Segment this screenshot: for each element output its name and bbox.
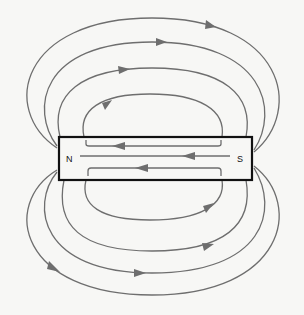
bottom-field-lines (27, 166, 279, 295)
field-line-bottom-3 (62, 180, 247, 251)
arrow-top-2 (156, 38, 167, 46)
north-pole-label: N (66, 154, 73, 164)
field-line-bottom-4 (85, 180, 222, 220)
arrow-bottom-3 (202, 243, 214, 251)
south-pole-label: S (237, 154, 243, 164)
top-field-lines (27, 18, 279, 152)
bar-magnet-field-diagram: N S (0, 0, 304, 315)
field-line-bottom-1 (27, 166, 279, 295)
field-line-top-3 (58, 68, 247, 137)
field-line-top-2 (44, 42, 264, 150)
arrow-top-1 (205, 20, 216, 29)
field-line-top-4 (83, 94, 222, 137)
arrow-bottom-4 (203, 203, 214, 213)
arrow-top-3 (118, 66, 130, 74)
field-line-top-1 (27, 18, 279, 152)
arrow-bottom-1 (47, 261, 60, 272)
arrow-bottom-2 (134, 269, 146, 277)
